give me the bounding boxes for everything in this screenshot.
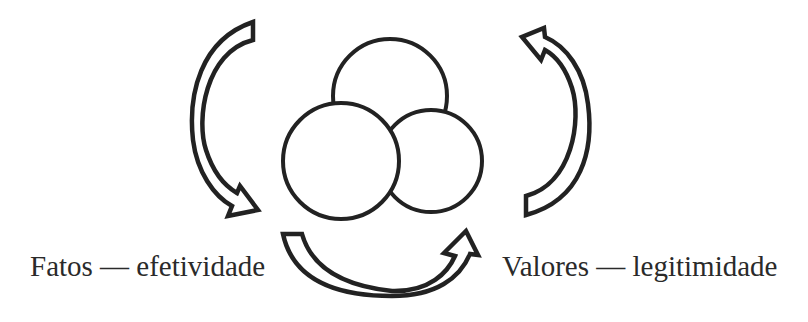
bottom-curved-arrow-icon bbox=[283, 231, 478, 296]
left-curved-arrow-icon bbox=[192, 22, 258, 216]
three-circles-cluster bbox=[283, 39, 482, 219]
left-circle bbox=[283, 103, 399, 219]
facts-effectiveness-label: Fatos — efetividade bbox=[30, 250, 265, 283]
values-legitimacy-label: Valores — legitimidade bbox=[502, 250, 777, 283]
right-curved-arrow-icon bbox=[522, 28, 589, 215]
